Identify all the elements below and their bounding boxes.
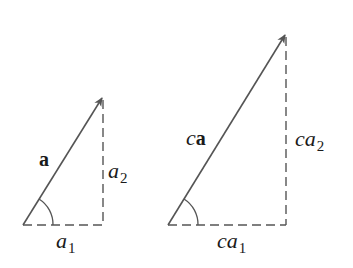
label-vector-ca: ca — [186, 125, 206, 150]
label-a2: a2 — [108, 158, 128, 186]
label-vector-a: a — [39, 148, 49, 170]
label-ca2: ca2 — [295, 126, 324, 154]
right-triangle: ca ca2 ca1 — [168, 35, 324, 256]
vector-a-arrow — [23, 98, 102, 225]
left-triangle: a a2 a1 — [23, 98, 128, 256]
label-ca1: ca1 — [217, 228, 246, 256]
angle-arc-right — [184, 199, 198, 225]
label-a1: a1 — [56, 228, 76, 256]
angle-arc-left — [39, 199, 53, 225]
vector-scaling-diagram: a a2 a1 ca ca2 ca1 — [0, 0, 353, 268]
